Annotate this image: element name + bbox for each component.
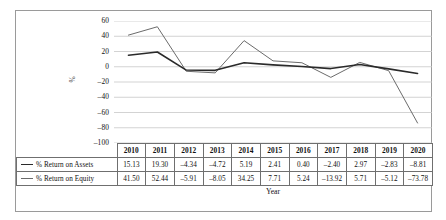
table-row: % Return on Equity41.5052.44–5.91–8.0534… — [17, 172, 433, 186]
gridlines — [114, 21, 432, 143]
table-corner-cell — [17, 144, 118, 158]
x-axis-title: Year — [114, 187, 432, 196]
table-col-header-2014: 2014 — [232, 144, 261, 158]
table-header-row: 2010201120122013201420152016201720182019… — [17, 144, 433, 158]
chart-plot-area — [114, 21, 432, 143]
table-col-header-2020: 2020 — [404, 144, 433, 158]
table-cell: 2.41 — [260, 158, 289, 172]
line-swatch-gray-icon — [21, 178, 33, 179]
table-col-header-2011: 2011 — [146, 144, 175, 158]
y-axis-tick-label: –80 — [75, 124, 109, 131]
y-axis-tick-label: 60 — [75, 17, 109, 24]
table-cell: –8.81 — [404, 158, 433, 172]
table-col-header-2015: 2015 — [260, 144, 289, 158]
table-cell: 15.13 — [117, 158, 146, 172]
line-swatch-dark-icon — [21, 164, 33, 165]
y-axis-tick-label: 40 — [75, 33, 109, 40]
table-header: 2010201120122013201420152016201720182019… — [17, 144, 433, 158]
table-cell: 52.44 — [146, 172, 175, 186]
table-col-header-2013: 2013 — [203, 144, 232, 158]
table-cell: 0.40 — [289, 158, 318, 172]
table-cell: –13.92 — [318, 172, 347, 186]
y-axis-tick-label: –40 — [75, 94, 109, 101]
table-cell: –8.05 — [203, 172, 232, 186]
table-col-header-2012: 2012 — [174, 144, 203, 158]
table-col-header-2016: 2016 — [289, 144, 318, 158]
table-cell: –4.34 — [174, 158, 203, 172]
figure-frame: % 6040200–20–40–60–80–100 20102011201220… — [15, 10, 432, 212]
table-cell: 2.97 — [346, 158, 375, 172]
table-cell: 41.50 — [117, 172, 146, 186]
line-chart-svg — [114, 21, 432, 143]
table-row: % Return on Assets15.1319.30–4.34–4.725.… — [17, 158, 433, 172]
table-cell: 5.24 — [289, 172, 318, 186]
table-cell: 5.19 — [232, 158, 261, 172]
table-col-header-2018: 2018 — [346, 144, 375, 158]
table-cell: 7.71 — [260, 172, 289, 186]
y-axis-tick-labels: 6040200–20–40–60–80–100 — [76, 21, 112, 143]
table-cell: –2.40 — [318, 158, 347, 172]
table-col-header-2017: 2017 — [318, 144, 347, 158]
legend-label: % Return on Equity — [36, 175, 94, 183]
chart-data-table: 2010201120122013201420152016201720182019… — [16, 143, 433, 186]
table-cell: –5.91 — [174, 172, 203, 186]
table-body: % Return on Assets15.1319.30–4.34–4.725.… — [17, 158, 433, 186]
table-cell: 19.30 — [146, 158, 175, 172]
y-axis-tick-label: –60 — [75, 109, 109, 116]
y-axis-tick-label: 20 — [75, 48, 109, 55]
legend-label: % Return on Assets — [36, 161, 93, 169]
legend-entry: % Return on Equity — [17, 172, 118, 186]
table-cell: –4.72 — [203, 158, 232, 172]
table-cell: 34.25 — [232, 172, 261, 186]
table-cell: –2.83 — [375, 158, 404, 172]
table-cell: 5.71 — [346, 172, 375, 186]
series-line — [128, 52, 417, 73]
y-axis-tick-label: 0 — [75, 63, 109, 70]
series-line — [128, 27, 417, 123]
table-col-header-2010: 2010 — [117, 144, 146, 158]
series-lines — [128, 27, 417, 123]
table-col-header-2019: 2019 — [375, 144, 404, 158]
table-cell: –73.78 — [404, 172, 433, 186]
table-cell: –5.12 — [375, 172, 404, 186]
legend-entry: % Return on Assets — [17, 158, 118, 172]
y-axis-tick-label: –20 — [75, 78, 109, 85]
